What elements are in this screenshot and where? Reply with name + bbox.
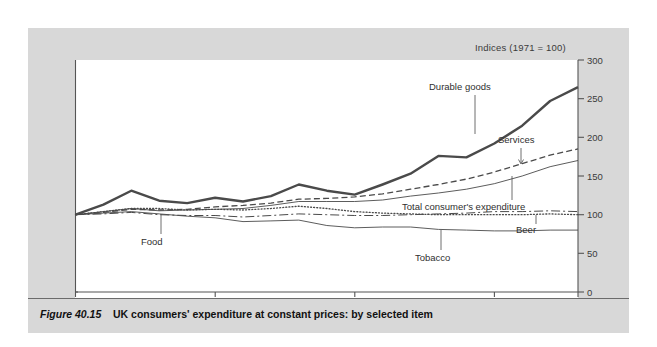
figure-caption: Figure 40.15 UK consumers' expenditure a…	[40, 308, 433, 320]
figure-number: Figure 40.15	[40, 308, 101, 320]
x-ticks	[76, 292, 579, 297]
y-tick-label-300: 300	[587, 55, 603, 66]
annotation-services: Services	[498, 134, 535, 164]
annotation-food: Food	[141, 214, 163, 247]
annotation-total-consumers-expenditure: Total consumer's expenditure	[402, 176, 525, 212]
y-tick-label-150: 150	[587, 171, 603, 182]
figure-caption-text: UK consumers' expenditure at constant pr…	[113, 308, 433, 320]
figure-panel: Indices (1971 = 100)	[28, 28, 629, 333]
series-label-food: Food	[141, 236, 163, 247]
series-label-beer: Beer	[516, 224, 536, 235]
y-tick-label-200: 200	[587, 132, 603, 143]
series-label-durable-goods: Durable goods	[429, 81, 491, 92]
y-tick-label-50: 50	[587, 248, 598, 259]
caption-bar: Figure 40.15 UK consumers' expenditure a…	[28, 298, 629, 333]
y-tick-label-250: 250	[587, 93, 603, 104]
chart-area: Indices (1971 = 100)	[28, 28, 629, 298]
chart-svg: 300 250 200 150 100 50 0 1971 1976 1981 …	[28, 28, 629, 333]
axis-right	[578, 60, 584, 292]
series-label-services: Services	[498, 134, 535, 145]
series-label-tobacco: Tobacco	[415, 252, 450, 263]
series-line-durable-goods	[76, 87, 579, 215]
annotation-tobacco: Tobacco	[415, 230, 450, 263]
series-label-total-consumers-expenditure: Total consumer's expenditure	[402, 201, 525, 212]
axis-left	[76, 60, 79, 292]
y-tick-label-100: 100	[587, 209, 603, 220]
annotation-beer: Beer	[516, 215, 536, 235]
annotation-durable-goods: Durable goods	[429, 81, 491, 134]
y-tick-label-0: 0	[587, 287, 592, 298]
